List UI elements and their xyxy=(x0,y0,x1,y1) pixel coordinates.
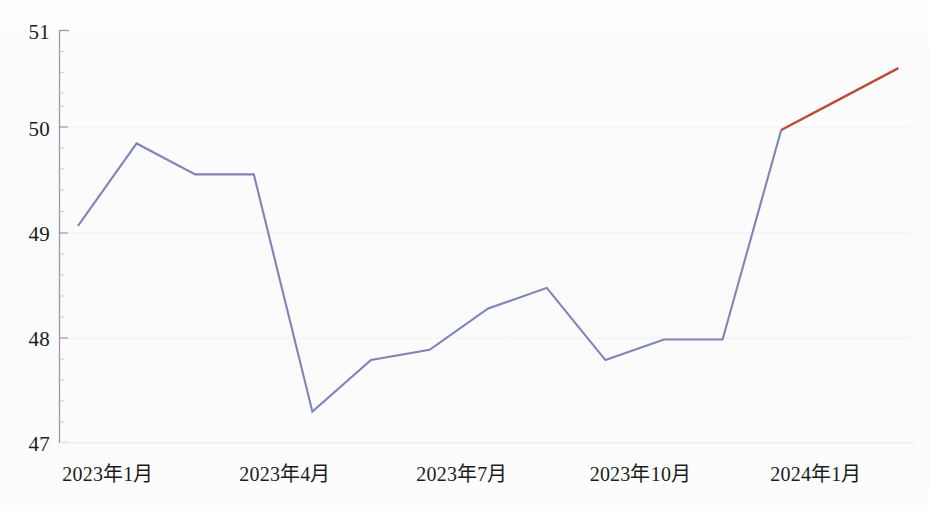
line-series-forecast xyxy=(781,68,898,130)
y-axis-spine xyxy=(60,30,70,443)
y-axis-minor-ticks xyxy=(60,52,65,422)
line-series-actual xyxy=(78,130,781,412)
plot-area xyxy=(0,0,930,513)
faint-gridlines xyxy=(60,127,910,338)
chart-figure: 51 50 49 48 47 2023年1月 2023年4月 2023年7月 2… xyxy=(0,0,930,513)
y-axis-major-ticks xyxy=(60,127,69,338)
